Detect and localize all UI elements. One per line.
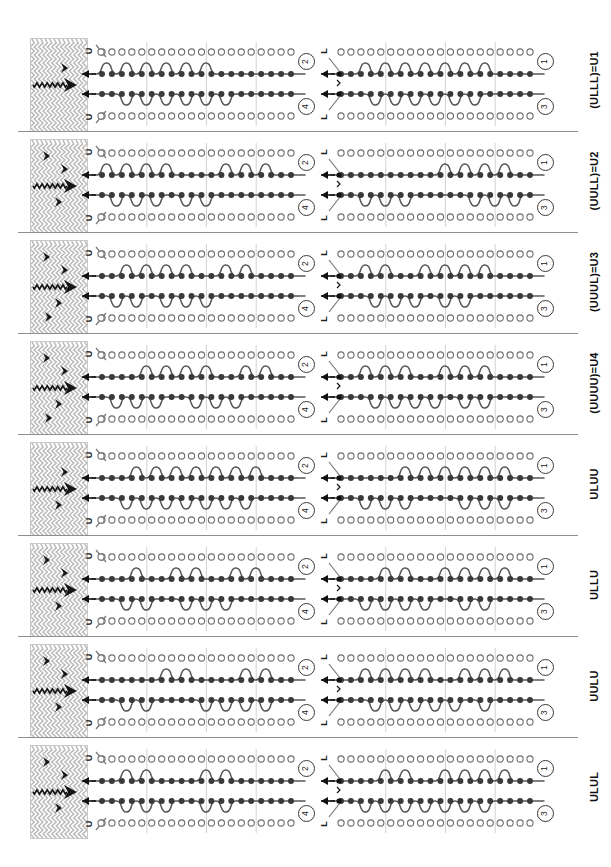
bed-marker-bottom: U xyxy=(84,619,94,626)
bed-marker-top: L xyxy=(319,149,329,155)
row-label-text: ULUL xyxy=(588,772,600,802)
diagram-sheet: 24UU13LL(ULLL)=U124UU13LL(UULL)=U224UU13… xyxy=(0,0,611,867)
row-label: ULLU xyxy=(579,539,609,631)
needle-panel-left: 24UU xyxy=(88,38,313,130)
row-separator xyxy=(18,636,578,637)
panel-index-top: 2 xyxy=(298,760,315,777)
diagram-row: 24UU13LL(UULL)=U2 xyxy=(0,135,611,235)
panel-index-top: 2 xyxy=(298,558,315,575)
diagram-row: 24UU13LLUULU xyxy=(0,640,611,740)
bed-marker-bottom: L xyxy=(319,316,329,322)
fabric-hatch-block xyxy=(30,644,88,738)
row-label-text: ULUU xyxy=(588,468,600,499)
bed-marker-top: L xyxy=(319,452,329,458)
diagram-row: 24UU13LLULUL xyxy=(0,741,611,841)
panel-index-top: 1 xyxy=(537,255,554,272)
bed-marker-bottom: U xyxy=(84,215,94,222)
needle-panel-right: 13LL xyxy=(327,139,552,231)
row-separator xyxy=(18,333,578,334)
bed-marker-top: U xyxy=(84,654,94,661)
fabric-hatch-block xyxy=(30,341,88,435)
needle-panel-right: 13LL xyxy=(327,38,552,130)
needle-panel-left: 24UU xyxy=(88,644,313,736)
bed-marker-bottom: U xyxy=(84,720,94,727)
diagram-row: 24UU13LLULLU xyxy=(0,539,611,639)
bed-marker-bottom: L xyxy=(319,417,329,423)
panel-index-top: 1 xyxy=(537,659,554,676)
panel-index-bottom: 4 xyxy=(298,603,315,620)
needle-panel-right: 13LL xyxy=(327,442,552,534)
bed-marker-bottom: L xyxy=(319,619,329,625)
diagram-row: 24UU13LL(UUUU)=U4 xyxy=(0,337,611,437)
diagram-row: 24UU13LL(ULLL)=U1 xyxy=(0,34,611,134)
bed-marker-top: L xyxy=(319,48,329,54)
panel-index-top: 1 xyxy=(537,356,554,373)
panel-index-bottom: 4 xyxy=(298,199,315,216)
panel-index-top: 1 xyxy=(537,760,554,777)
row-separator xyxy=(18,232,578,233)
panel-index-top: 1 xyxy=(537,154,554,171)
bed-marker-top: U xyxy=(84,553,94,560)
bed-marker-bottom: L xyxy=(319,821,329,827)
panel-index-bottom: 4 xyxy=(298,805,315,822)
fabric-hatch-block xyxy=(30,240,88,334)
panel-index-bottom: 3 xyxy=(537,603,554,620)
bed-marker-top: U xyxy=(84,452,94,459)
row-label-text: (UUUL)=U3 xyxy=(588,252,600,312)
bed-marker-top: L xyxy=(319,553,329,559)
needle-panel-left: 24UU xyxy=(88,745,313,837)
bed-marker-bottom: U xyxy=(84,417,94,424)
panel-index-bottom: 4 xyxy=(298,98,315,115)
panel-index-bottom: 3 xyxy=(537,199,554,216)
panel-index-top: 1 xyxy=(537,53,554,70)
diagram-row: 24UU13LLULUU xyxy=(0,438,611,538)
bed-marker-top: L xyxy=(319,250,329,256)
row-separator xyxy=(18,434,578,435)
panel-index-top: 2 xyxy=(298,356,315,373)
row-label: (ULLL)=U1 xyxy=(579,34,609,126)
bed-marker-top: U xyxy=(84,250,94,257)
needle-panel-right: 13LL xyxy=(327,644,552,736)
row-label: ULUL xyxy=(579,741,609,833)
row-label-text: ULLU xyxy=(588,570,600,600)
row-separator xyxy=(18,535,578,536)
needle-panel-right: 13LL xyxy=(327,543,552,635)
bed-marker-top: U xyxy=(84,48,94,55)
fabric-hatch-block xyxy=(30,139,88,233)
panel-index-top: 1 xyxy=(537,558,554,575)
panel-index-top: 2 xyxy=(298,659,315,676)
needle-panel-left: 24UU xyxy=(88,442,313,534)
needle-panel-left: 24UU xyxy=(88,341,313,433)
bed-marker-top: U xyxy=(84,149,94,156)
bed-marker-bottom: U xyxy=(84,114,94,121)
needle-panel-right: 13LL xyxy=(327,745,552,837)
row-separator xyxy=(18,737,578,738)
row-label-text: (UULL)=U2 xyxy=(588,152,600,211)
panel-index-top: 2 xyxy=(298,154,315,171)
bed-marker-bottom: U xyxy=(84,518,94,525)
fabric-hatch-block xyxy=(30,442,88,536)
row-label-text: (ULLL)=U1 xyxy=(588,51,600,109)
row-label-text: UULU xyxy=(588,670,600,701)
row-label-text: (UUUU)=U4 xyxy=(588,352,600,413)
panel-index-bottom: 3 xyxy=(537,704,554,721)
bed-marker-bottom: L xyxy=(319,720,329,726)
panel-index-bottom: 3 xyxy=(537,502,554,519)
panel-index-top: 2 xyxy=(298,53,315,70)
bed-marker-top: L xyxy=(319,755,329,761)
fabric-hatch-block xyxy=(30,543,88,637)
panel-index-top: 1 xyxy=(537,457,554,474)
panel-index-bottom: 4 xyxy=(298,502,315,519)
needle-panel-right: 13LL xyxy=(327,240,552,332)
bed-marker-top: U xyxy=(84,755,94,762)
bed-marker-top: U xyxy=(84,351,94,358)
row-label: (UUUU)=U4 xyxy=(579,337,609,429)
panel-index-bottom: 4 xyxy=(298,401,315,418)
needle-panel-left: 24UU xyxy=(88,240,313,332)
panel-index-bottom: 3 xyxy=(537,401,554,418)
row-label: ULUU xyxy=(579,438,609,530)
fabric-hatch-block xyxy=(30,38,88,132)
panel-index-bottom: 4 xyxy=(298,300,315,317)
row-label: (UUUL)=U3 xyxy=(579,236,609,328)
panel-index-bottom: 3 xyxy=(537,805,554,822)
